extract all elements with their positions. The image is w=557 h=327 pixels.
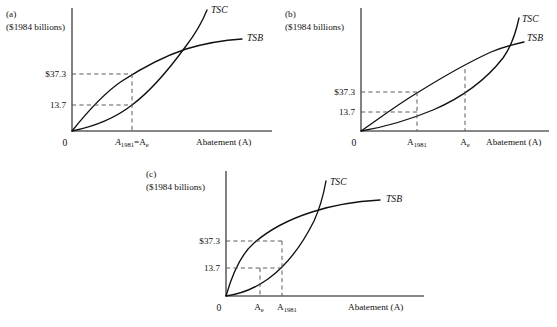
panel-a-units-label: ($1984 billions): [6, 22, 65, 32]
panel-c-xtick-ae: Ae: [254, 302, 264, 313]
panel-a-id: (a): [6, 9, 16, 19]
panel-c-tsc-label: TSC: [330, 176, 347, 187]
panel-c-xtick-a1981: A1981: [277, 302, 297, 313]
panel-c-origin-label: 0: [217, 302, 222, 313]
panel-a-xtick-sub1981: 1981: [121, 141, 134, 148]
panel-b-tsb-curve: [361, 42, 524, 131]
panel-c-tsb-label: TSB: [386, 193, 402, 204]
panel-a-xtick-group: A1981=Ae: [114, 137, 149, 148]
panel-a: (a) ($1984 billions) $37.3 13.7 0 A1981=…: [0, 0, 280, 160]
panel-a-xtick-eqA: =A: [134, 137, 146, 147]
panel-b-id: (b): [285, 9, 296, 19]
panel-b-xtick-a1981: A1981: [407, 137, 427, 148]
panel-a-x-axis-label: Abatement (A): [196, 137, 251, 147]
panel-b-xtick-ae: Ae: [460, 137, 470, 148]
panel-a-ytick-low: 13.7: [50, 100, 66, 110]
svg-text:A1981=Ae: A1981=Ae: [114, 137, 149, 148]
panel-b-tsb-label: TSB: [527, 32, 543, 43]
panel-c-tsc-curve: [226, 181, 326, 296]
panel-a-tsb-curve: [72, 39, 242, 131]
panel-a-ytick-high: $37.3: [45, 69, 66, 79]
panel-b-x-axis-label: Abatement (A): [486, 137, 541, 147]
panel-b-units-label: ($1984 billions): [285, 22, 344, 32]
panel-c-tsb-curve: [226, 200, 380, 296]
panel-b-tsc-label: TSC: [522, 13, 539, 24]
figure-three-panel-abatement: (a) ($1984 billions) $37.3 13.7 0 A1981=…: [0, 0, 557, 327]
panel-c-x-axis-label: Abatement (A): [348, 302, 403, 312]
panel-a-tsc-label: TSC: [211, 4, 228, 15]
panel-b-ytick-low: 13.7: [339, 107, 355, 117]
panel-c: (c) ($1984 billions) $37.3 13.7 0 Ae A19…: [140, 163, 430, 327]
panel-b: (b) ($1984 billions) $37.3 13.7 0 A1981 …: [281, 0, 557, 160]
panel-c-ytick-high: $37.3: [199, 236, 220, 246]
panel-b-ytick-high: $37.3: [334, 87, 355, 97]
panel-c-id: (c): [146, 169, 156, 179]
panel-b-origin-label: 0: [352, 137, 357, 148]
panel-a-tsb-label: TSB: [247, 32, 263, 43]
panel-c-units-label: ($1984 billions): [146, 182, 205, 192]
panel-a-xtick-sube: e: [146, 141, 149, 148]
panel-c-ytick-low: 13.7: [204, 263, 220, 273]
panel-a-origin-label: 0: [63, 137, 68, 148]
